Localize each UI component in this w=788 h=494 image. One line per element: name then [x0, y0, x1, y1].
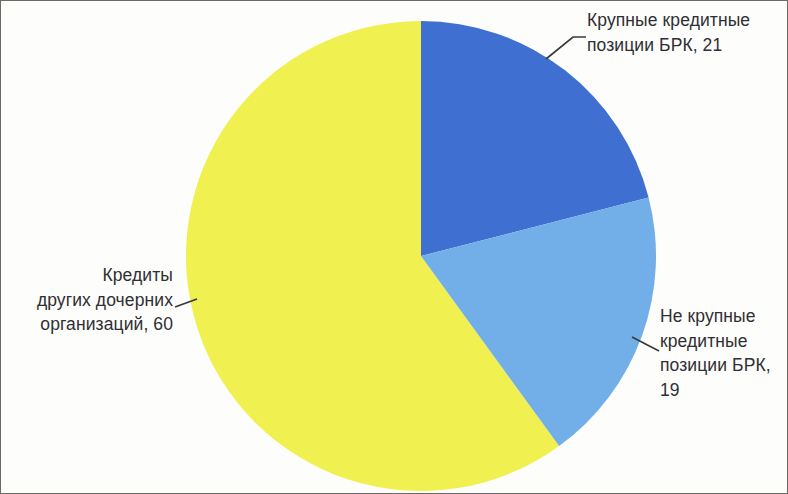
pie-chart-canvas — [1, 1, 788, 494]
pie-label-small-credit-positions: Не крупные кредитные позиции БРК, 19 — [660, 304, 788, 402]
leader-line-large-credit-positions — [546, 37, 586, 59]
pie-chart-figure: Крупные кредитные позиции БРК, 21 Не кру… — [0, 0, 788, 494]
pie-label-large-credit-positions: Крупные кредитные позиции БРК, 21 — [587, 8, 787, 57]
pie-label-other-subsidiary-credits: Кредиты других дочерних организаций, 60 — [3, 263, 173, 337]
